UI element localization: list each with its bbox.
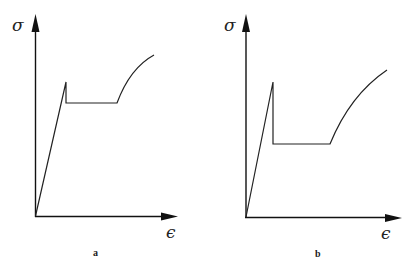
epsilon-label-b: ϵ [381, 223, 391, 243]
stress-strain-curve-b [246, 70, 387, 217]
x-axis-arrow-icon [385, 214, 402, 222]
sigma-label-a: σ [12, 15, 24, 35]
y-axis-arrow-icon [242, 14, 250, 32]
panel-b: σ ϵ b [224, 14, 402, 259]
panel-label-b: b [315, 248, 321, 259]
x-axis-arrow-icon [161, 213, 178, 221]
stress-strain-figure: σ ϵ a σ ϵ b [0, 0, 416, 271]
panel-a: σ ϵ a [12, 14, 178, 258]
sigma-label-b: σ [224, 15, 236, 35]
epsilon-label-a: ϵ [166, 222, 176, 242]
panel-label-a: a [93, 247, 98, 258]
stress-strain-curve-a [36, 55, 155, 216]
y-axis-arrow-icon [32, 14, 40, 32]
